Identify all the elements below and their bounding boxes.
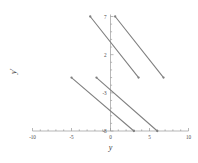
x-tick-label: 10 xyxy=(186,134,191,140)
data-point-marker xyxy=(156,130,158,132)
data-line xyxy=(72,78,134,131)
y-axis-title: y' xyxy=(9,68,18,73)
data-line-segment xyxy=(95,76,158,132)
data-line xyxy=(115,17,163,78)
data-series-group xyxy=(70,15,164,132)
data-point-marker xyxy=(95,76,97,78)
data-point-marker xyxy=(162,76,164,78)
y-tick-label: 7 xyxy=(104,14,106,20)
data-line-segment xyxy=(70,76,135,132)
y-tick-label: -8 xyxy=(103,128,107,134)
data-point-marker xyxy=(133,130,135,132)
y-tick-label: 2 xyxy=(104,52,106,58)
x-tick-label: 0 xyxy=(109,134,111,140)
x-tick-label: 5 xyxy=(148,134,150,140)
chart-plot: -10-50510-8-327 y y' xyxy=(0,0,198,163)
data-point-marker xyxy=(114,15,116,17)
data-line-segment xyxy=(89,15,140,78)
y-tick-label: -3 xyxy=(103,90,107,96)
x-tick-label: -10 xyxy=(29,134,35,140)
data-point-marker xyxy=(70,76,72,78)
data-line-segment xyxy=(114,15,165,78)
data-line xyxy=(96,78,157,131)
data-line xyxy=(90,17,138,78)
data-point-marker xyxy=(89,15,91,17)
x-axis-title: y xyxy=(109,143,113,152)
x-tick-label: -5 xyxy=(70,134,74,140)
data-point-marker xyxy=(137,76,139,78)
